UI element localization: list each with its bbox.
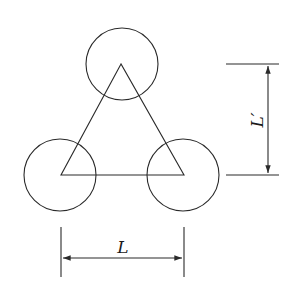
triangle-circles-diagram: L′ L [0, 0, 295, 285]
equilateral-triangle [61, 64, 184, 175]
vertical-dimension: L′ [226, 64, 279, 175]
horizontal-dimension: L [61, 227, 184, 277]
horizontal-dimension-label: L [116, 237, 128, 257]
vertical-dimension-label: L′ [247, 112, 267, 128]
top-circle [86, 28, 158, 100]
